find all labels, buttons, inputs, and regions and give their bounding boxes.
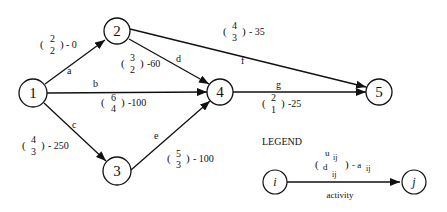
node-5-label: 5: [375, 84, 383, 100]
legend-u: u: [325, 148, 330, 158]
legend-paren-open: (: [315, 158, 319, 171]
activity-d-label: d: [176, 53, 181, 64]
paren-close: ): [186, 152, 190, 165]
paren-open: (: [121, 57, 125, 70]
node-4-label: 4: [216, 84, 224, 100]
legend-cost: - a: [352, 160, 361, 170]
edge-b-data: ( 6 4 ) -100: [101, 92, 146, 114]
paren-open: (: [167, 152, 171, 165]
edge-g-u: 2: [271, 92, 276, 103]
edge-d-cost: -60: [147, 58, 160, 69]
legend: LEGEND i j u ij ( d ij ) - a ij activity: [262, 136, 426, 200]
edge-f-u: 4: [232, 20, 237, 31]
edge-a-cost: - 0: [66, 39, 77, 50]
edge-e-data: ( 5 3 ) - 100: [167, 148, 214, 170]
edge-a-data: ( 2 2 ) - 0: [40, 33, 77, 56]
edge-b-u: 6: [111, 92, 116, 103]
legend-u-sub: ij: [333, 153, 337, 162]
paren-open: (: [40, 38, 44, 51]
network-diagram: 1 2 3 4 5 a b c d e f g ( 2 2 ): [0, 0, 447, 212]
edge-a-u: 2: [50, 33, 55, 44]
edges: [44, 29, 366, 170]
edge-b: [47, 92, 207, 93]
edge-g-data: ( 2 1 ) -25: [262, 92, 301, 115]
legend-d: d: [323, 162, 328, 172]
node-3-label: 3: [113, 163, 121, 179]
edge-d-u: 3: [130, 52, 135, 63]
node-1-label: 1: [29, 85, 37, 101]
paren-close: ): [121, 96, 125, 109]
legend-cost-sub: ij: [366, 164, 370, 173]
edge-f: [130, 29, 366, 87]
edge-e-d: 3: [176, 159, 181, 170]
paren-close: ): [281, 97, 285, 110]
paren-open: (: [101, 96, 105, 109]
edge-c-cost: - 250: [48, 140, 69, 151]
node-1: 1: [19, 79, 47, 107]
edge-b-cost: -100: [128, 97, 146, 108]
edge-f-data: ( 4 3 ) - 35: [223, 20, 265, 43]
paren-open: (: [262, 97, 266, 110]
edge-b-d: 4: [111, 103, 116, 114]
paren-close: ): [60, 38, 64, 51]
edge-f-cost: - 35: [249, 26, 265, 37]
edge-f-d: 3: [232, 32, 237, 43]
legend-activity-label: activity: [327, 190, 354, 200]
activity-e-label: e: [154, 130, 159, 141]
legend-title: LEGEND: [262, 136, 302, 147]
legend-node-i-label: i: [273, 175, 276, 189]
edge-g-d: 1: [271, 104, 276, 115]
node-3: 3: [103, 157, 131, 185]
edge-d-d: 2: [130, 64, 135, 75]
edge-e-u: 5: [176, 148, 181, 159]
edge-d-data: ( 3 2 ) -60: [121, 52, 160, 75]
edge-a-d: 2: [50, 45, 55, 56]
paren-open: (: [223, 25, 227, 38]
paren-close: ): [41, 139, 45, 152]
edge-c-u: 4: [31, 134, 36, 145]
legend-d-sub: ij: [332, 170, 336, 179]
edge-c-data: ( 4 3 ) - 250: [22, 134, 69, 157]
node-5: 5: [366, 79, 392, 105]
activity-b-label: b: [93, 78, 98, 89]
activity-labels: a b c d e f g: [67, 53, 281, 141]
activity-c-label: c: [72, 119, 77, 130]
edge-g-cost: -25: [288, 98, 301, 109]
edge-e-cost: - 100: [193, 153, 214, 164]
activity-a-label: a: [67, 65, 72, 76]
node-2-label: 2: [113, 23, 121, 39]
edge-c: [44, 103, 106, 161]
node-2: 2: [104, 18, 130, 44]
paren-close: ): [242, 25, 246, 38]
legend-paren-close: ): [345, 158, 349, 171]
activity-g-label: g: [276, 79, 281, 90]
paren-open: (: [22, 139, 26, 152]
paren-close: ): [140, 57, 144, 70]
edge-c-d: 3: [31, 146, 36, 157]
node-4: 4: [207, 79, 233, 105]
